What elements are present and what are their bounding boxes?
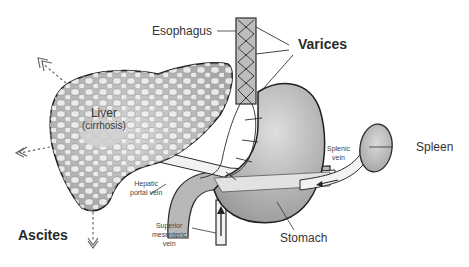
label-ascites: Ascites [18, 228, 68, 242]
label-liver: Liver (cirrhosis) [82, 107, 126, 131]
label-stomach: Stomach [280, 232, 327, 244]
label-hepatic-portal-vein-line1: Hepatic [134, 180, 158, 187]
label-smv-line3: vein [163, 240, 176, 247]
stomach [214, 84, 330, 223]
label-splenic-vein-line2: vein [332, 154, 345, 161]
label-liver-name: Liver [91, 106, 117, 120]
label-smv-line2: mesenteric [152, 231, 186, 238]
label-splenic-vein-line1: Splenic [327, 145, 350, 152]
label-smv-line1: Superior [156, 222, 182, 229]
label-splenic-vein: Splenic vein [327, 145, 350, 163]
label-varices: Varices [298, 37, 347, 51]
label-spleen: Spleen [416, 141, 453, 153]
label-esophagus: Esophagus [152, 25, 212, 37]
label-hepatic-portal-vein-line2: portal vein [130, 189, 162, 196]
label-liver-condition: (cirrhosis) [82, 120, 126, 131]
label-hepatic-portal-vein: Hepatic portal vein [130, 180, 162, 198]
diagram-canvas [0, 0, 469, 267]
label-superior-mesenteric-vein: Superior mesenteric vein [152, 222, 186, 248]
varices-leaders [256, 27, 293, 89]
